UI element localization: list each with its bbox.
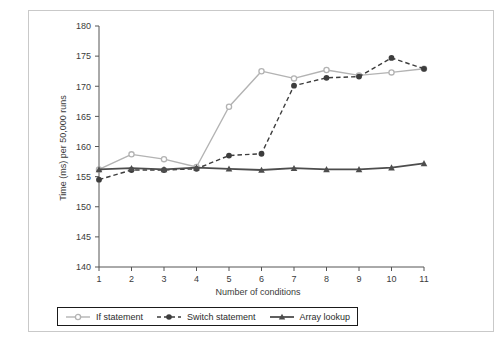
data-point-marker: [259, 151, 265, 157]
x-axis-tick-label: 1: [96, 274, 101, 284]
data-point-marker: [389, 55, 395, 61]
y-axis-title: Time (ms) per 50,000 runs: [58, 95, 68, 201]
data-point-marker: [356, 74, 362, 80]
y-axis-tick-label: 145: [76, 232, 91, 242]
data-point-marker: [291, 83, 297, 89]
data-point-marker: [324, 67, 329, 72]
legend-label-if-statement: If statement: [96, 312, 143, 322]
data-point-marker: [324, 75, 330, 81]
x-axis-tick-label: 5: [226, 274, 231, 284]
y-axis-tick-label: 155: [76, 172, 91, 182]
data-point-marker: [129, 152, 134, 157]
y-axis-tick-label: 150: [76, 202, 91, 212]
x-axis-tick-label: 6: [259, 274, 264, 284]
y-axis-tick-label: 170: [76, 82, 91, 92]
data-point-marker: [259, 69, 264, 74]
x-axis-tick-label: 9: [356, 274, 361, 284]
chart-plot: 1401451501551601651701751801234567891011…: [0, 0, 503, 344]
legend-item-switch-statement[interactable]: Switch statement: [156, 311, 256, 323]
data-point-marker: [291, 76, 296, 81]
y-axis-tick-label: 175: [76, 51, 91, 61]
legend-marker-if-statement: [65, 311, 91, 323]
y-axis-tick-label: 165: [76, 112, 91, 122]
x-axis-tick-label: 7: [291, 274, 296, 284]
series-layer: [96, 55, 428, 183]
series-array-lookup: [96, 160, 428, 173]
series-line: [99, 58, 424, 180]
legend-marker-switch-statement: [156, 311, 182, 323]
x-axis-tick-label: 11: [419, 274, 428, 284]
chart-figure: 1401451501551601651701751801234567891011…: [0, 0, 503, 344]
x-axis-tick-label: 2: [129, 274, 134, 284]
legend-label-switch-statement: Switch statement: [187, 312, 256, 322]
legend-item-if-statement[interactable]: If statement: [65, 311, 143, 323]
y-axis-tick-label: 180: [76, 21, 91, 31]
chart-legend: If statement Switch statement Array look…: [57, 307, 358, 326]
y-axis-tick-label: 140: [76, 262, 91, 272]
x-axis-tick-label: 3: [161, 274, 166, 284]
data-point-marker: [226, 104, 231, 109]
data-point-marker: [161, 157, 166, 162]
data-point-marker: [421, 66, 427, 72]
x-axis-tick-label: 4: [194, 274, 199, 284]
data-point-marker: [226, 153, 232, 159]
x-axis-tick-label: 10: [386, 274, 396, 284]
legend-label-array-lookup: Array lookup: [300, 312, 351, 322]
x-axis-tick-label: 8: [324, 274, 329, 284]
data-point-marker: [389, 70, 394, 75]
legend-item-array-lookup[interactable]: Array lookup: [269, 311, 351, 323]
legend-marker-array-lookup: [269, 311, 295, 323]
data-point-marker: [96, 177, 102, 183]
x-axis-title: Number of conditions: [215, 287, 301, 297]
y-axis-tick-label: 160: [76, 142, 91, 152]
